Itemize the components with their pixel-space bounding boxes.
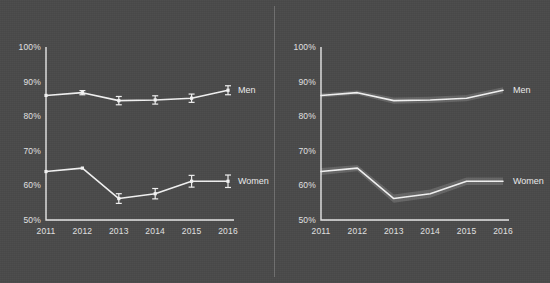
y-axis-tick-label: 80% [23, 111, 41, 121]
data-point-marker [117, 99, 120, 102]
chart-panel-right: 50%60%70%80%90%100%201120122013201420152… [275, 0, 550, 283]
data-point-marker [190, 180, 193, 183]
y-axis-tick-label: 50% [298, 215, 316, 225]
y-axis-tick-label: 90% [298, 77, 316, 87]
series-label-men: Men [238, 85, 256, 95]
y-axis-tick-label: 100% [18, 42, 41, 52]
x-axis-tick-label: 2012 [348, 226, 368, 236]
data-point-marker [154, 98, 157, 101]
y-axis-tick-label: 50% [23, 215, 41, 225]
x-axis-tick-label: 2013 [384, 226, 404, 236]
series-label-women: Women [513, 176, 544, 186]
x-axis-tick-label: 2015 [182, 226, 202, 236]
x-axis-tick-label: 2016 [493, 226, 513, 236]
y-axis-tick-label: 100% [293, 42, 316, 52]
x-axis-tick-label: 2012 [73, 226, 93, 236]
data-point-marker [117, 197, 120, 200]
data-point-marker [44, 94, 47, 97]
data-point-marker [226, 89, 229, 92]
data-point-marker [81, 167, 84, 170]
x-axis-tick-label: 2011 [311, 226, 330, 236]
y-axis-tick-label: 80% [298, 111, 316, 121]
x-axis-tick-label: 2014 [420, 226, 440, 236]
chart-panel-left: 50%60%70%80%90%100%201120122013201420152… [0, 0, 275, 283]
y-axis-tick-label: 70% [298, 146, 316, 156]
series-line-women [46, 168, 228, 198]
y-axis-tick-label: 70% [23, 146, 41, 156]
confidence-band-women [321, 165, 503, 203]
series-label-women: Women [238, 176, 269, 186]
x-axis-tick-label: 2015 [457, 226, 477, 236]
axis-lines [46, 47, 234, 220]
y-axis-tick-label: 90% [23, 77, 41, 87]
data-point-marker [226, 180, 229, 183]
series-label-men: Men [513, 85, 531, 95]
data-point-marker [44, 170, 47, 173]
line-chart-with-error-bars: 50%60%70%80%90%100%201120122013201420152… [0, 0, 275, 283]
x-axis-tick-label: 2016 [218, 226, 238, 236]
y-axis-tick-label: 60% [23, 180, 41, 190]
x-axis-tick-label: 2014 [145, 226, 165, 236]
line-chart-with-confidence-band: 50%60%70%80%90%100%201120122013201420152… [275, 0, 550, 283]
x-axis-tick-label: 2011 [36, 226, 55, 236]
figure-root: 50%60%70%80%90%100%201120122013201420152… [0, 0, 550, 283]
x-axis-tick-label: 2013 [109, 226, 129, 236]
data-point-marker [154, 192, 157, 195]
series-line-men [46, 90, 228, 100]
data-point-marker [190, 97, 193, 100]
y-axis-tick-label: 60% [298, 180, 316, 190]
data-point-marker [81, 91, 84, 94]
